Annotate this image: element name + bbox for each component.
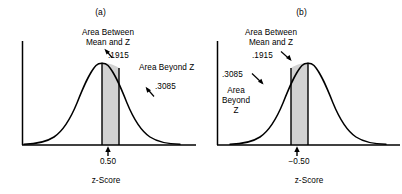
panel-b-shaded-area bbox=[291, 63, 308, 145]
panel-a-area-beyond-arrow bbox=[146, 87, 154, 97]
panel-b-area-beyond-value: .3085 bbox=[222, 70, 243, 80]
panel-b-area-beyond-line1: Area bbox=[213, 86, 259, 96]
panel-b-area-between-value: .1915 bbox=[252, 51, 273, 61]
panel-a-area-beyond-label: Area Beyond Z bbox=[139, 63, 194, 73]
panel-b-area-beyond-line2: Beyond bbox=[213, 96, 259, 106]
panel-a-area-between-line1: Area Between bbox=[62, 28, 154, 38]
panel-b: (b) bbox=[201, 0, 402, 194]
normal-distribution-figure: (a) bbox=[0, 0, 402, 194]
panel-b-area-between-line2: Mean and Z bbox=[225, 38, 317, 48]
panel-b-z-value: −0.50 bbox=[277, 157, 321, 167]
panel-b-area-between-line1: Area Between bbox=[225, 28, 317, 38]
panel-b-axis-title: z-Score bbox=[269, 176, 349, 186]
panel-a-z-value: 0.50 bbox=[88, 157, 128, 167]
panel-b-area-beyond-line3: Z bbox=[213, 106, 259, 116]
panel-a-z-arrow bbox=[105, 146, 110, 156]
panel-b-area-between-arrow bbox=[281, 52, 292, 62]
panel-b-area-beyond-arrow bbox=[252, 74, 264, 85]
panel-a-area-between-line2: Mean and Z bbox=[62, 38, 154, 48]
panel-a-area-beyond-value: .3085 bbox=[155, 82, 176, 92]
panel-a-shaded-area bbox=[102, 63, 119, 145]
panel-a-axis-title: z-Score bbox=[66, 176, 146, 186]
panel-a-area-between-value: .1915 bbox=[108, 51, 129, 61]
panel-b-area-beyond-label: Area Beyond Z bbox=[213, 86, 259, 117]
panel-b-area-between-label: Area Between Mean and Z bbox=[225, 28, 317, 48]
panel-a: (a) bbox=[0, 0, 201, 194]
panel-a-area-between-label: Area Between Mean and Z bbox=[62, 28, 154, 48]
panel-b-z-arrow bbox=[294, 146, 299, 156]
